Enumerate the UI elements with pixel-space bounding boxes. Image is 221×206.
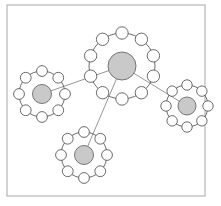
satellite-node[interactable] [116, 93, 128, 105]
node-core-bottom[interactable] [75, 146, 94, 165]
satellite-node[interactable] [37, 112, 48, 123]
satellite-node[interactable] [53, 72, 64, 83]
satellite-node[interactable] [20, 105, 31, 116]
satellite-node[interactable] [84, 50, 96, 62]
diagram-canvas [0, 0, 221, 206]
satellite-node[interactable] [167, 116, 177, 126]
satellite-node[interactable] [37, 66, 48, 77]
satellite-node[interactable] [102, 150, 113, 161]
satellite-node[interactable] [135, 87, 147, 99]
node-bottom[interactable] [56, 127, 113, 184]
satellite-node[interactable] [96, 87, 108, 99]
satellite-node[interactable] [182, 122, 192, 132]
satellite-node[interactable] [14, 89, 25, 100]
satellite-node[interactable] [116, 27, 128, 39]
satellite-node[interactable] [60, 89, 71, 100]
satellite-node[interactable] [84, 70, 96, 82]
node-right[interactable] [161, 80, 213, 132]
satellite-node[interactable] [182, 80, 192, 90]
satellite-node[interactable] [53, 105, 64, 116]
satellite-node[interactable] [20, 72, 31, 83]
satellite-node[interactable] [79, 173, 90, 184]
network-diagram [0, 0, 221, 206]
satellite-node[interactable] [95, 133, 106, 144]
satellite-node[interactable] [79, 127, 90, 138]
satellite-node[interactable] [197, 86, 207, 96]
node-core-right[interactable] [178, 97, 196, 115]
satellite-node[interactable] [62, 133, 73, 144]
satellite-node[interactable] [197, 116, 207, 126]
satellite-node[interactable] [147, 50, 159, 62]
satellite-node[interactable] [95, 166, 106, 177]
satellite-node[interactable] [161, 101, 171, 111]
satellite-node[interactable] [56, 150, 67, 161]
satellite-node[interactable] [135, 33, 147, 45]
satellite-node[interactable] [96, 33, 108, 45]
node-core-hub[interactable] [108, 52, 136, 80]
satellite-node[interactable] [203, 101, 213, 111]
satellite-node[interactable] [147, 70, 159, 82]
node-left[interactable] [14, 66, 71, 123]
satellite-node[interactable] [167, 86, 177, 96]
satellite-node[interactable] [62, 166, 73, 177]
node-core-left[interactable] [33, 85, 52, 104]
